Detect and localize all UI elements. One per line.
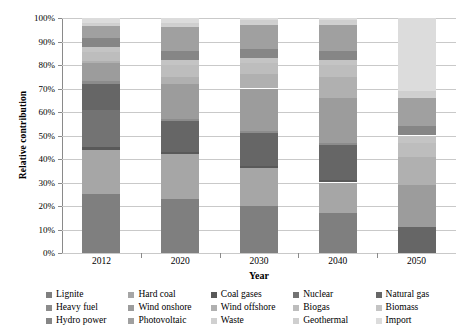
bar-segment[interactable]: [319, 145, 357, 180]
bar-segment[interactable]: [161, 84, 199, 119]
bar-segment[interactable]: [398, 98, 436, 126]
bar-segment[interactable]: [161, 18, 199, 23]
stacked-bar[interactable]: [161, 18, 199, 253]
legend-item[interactable]: Wind offshore: [211, 301, 293, 314]
bar-segment[interactable]: [398, 157, 436, 185]
chart-legend: LigniteHard coalCoal gasesNuclearNatural…: [46, 288, 458, 327]
bar-segment[interactable]: [161, 199, 199, 253]
bar-segment[interactable]: [161, 51, 199, 60]
bar-segment[interactable]: [240, 25, 278, 49]
y-axis-tick-label: 20%: [39, 201, 56, 211]
stacked-bar[interactable]: [319, 18, 357, 253]
legend-item[interactable]: Hydro power: [46, 314, 128, 327]
bar-segment[interactable]: [319, 23, 357, 25]
legend-item[interactable]: Lignite: [46, 288, 128, 301]
bar-segment[interactable]: [319, 60, 357, 65]
legend-item[interactable]: Hard coal: [128, 288, 210, 301]
bar-segment[interactable]: [82, 84, 120, 110]
bar-segment[interactable]: [319, 213, 357, 253]
plot-area: 0%10%20%30%40%50%60%70%80%90%100%: [62, 18, 456, 253]
bar-segment[interactable]: [240, 166, 278, 168]
bar-segment[interactable]: [398, 96, 436, 98]
bar-series-container: [62, 18, 456, 253]
y-axis-tick-label: 80%: [39, 60, 56, 70]
bar-segment[interactable]: [398, 136, 436, 143]
bar-segment[interactable]: [240, 133, 278, 166]
bar-segment[interactable]: [240, 89, 278, 131]
bar-segment[interactable]: [161, 119, 199, 121]
legend-swatch-icon: [376, 318, 382, 324]
bar-segment[interactable]: [240, 58, 278, 63]
bar-segment[interactable]: [82, 147, 120, 149]
bar-segment[interactable]: [398, 91, 436, 96]
legend-swatch-icon: [376, 292, 382, 298]
bar-segment[interactable]: [82, 24, 120, 26]
bar-segment[interactable]: [319, 98, 357, 143]
bar-segment[interactable]: [161, 27, 199, 51]
bar-segment[interactable]: [398, 185, 436, 227]
bar-segment[interactable]: [161, 154, 199, 199]
bar-segment[interactable]: [161, 60, 199, 65]
stacked-bar[interactable]: [82, 18, 120, 253]
bar-segment[interactable]: [161, 25, 199, 27]
bar-segment[interactable]: [319, 51, 357, 60]
bar-segment[interactable]: [240, 63, 278, 75]
bar-segment[interactable]: [319, 180, 357, 182]
legend-item[interactable]: Nuclear: [293, 288, 375, 301]
stacked-bar[interactable]: [398, 18, 436, 253]
bar-segment[interactable]: [398, 18, 436, 91]
legend-item[interactable]: Photovoltaic: [128, 314, 210, 327]
bar-segment[interactable]: [319, 25, 357, 51]
bar-segment[interactable]: [398, 143, 436, 157]
bar-segment[interactable]: [319, 18, 357, 20]
bar-segment[interactable]: [240, 74, 278, 88]
bar-segment[interactable]: [398, 126, 436, 135]
legend-swatch-icon: [128, 292, 134, 298]
bar-segment[interactable]: [240, 20, 278, 22]
bar-segment[interactable]: [240, 168, 278, 206]
bar-segment[interactable]: [82, 63, 120, 82]
bar-segment[interactable]: [82, 61, 120, 62]
bar-segment[interactable]: [319, 77, 357, 98]
legend-item[interactable]: Biomass: [376, 301, 458, 314]
bar-segment[interactable]: [319, 20, 357, 22]
stacked-bar[interactable]: [240, 18, 278, 253]
bar-segment[interactable]: [82, 52, 120, 61]
legend-item[interactable]: Import: [376, 314, 458, 327]
bar-segment[interactable]: [82, 81, 120, 83]
legend-swatch-icon: [211, 318, 217, 324]
bar-segment[interactable]: [161, 121, 199, 152]
bar-segment[interactable]: [319, 143, 357, 145]
bar-segment[interactable]: [240, 131, 278, 133]
bar-segment[interactable]: [82, 18, 120, 23]
bar-segment[interactable]: [319, 183, 357, 214]
legend-item-label: Import: [386, 314, 412, 327]
bar-segment[interactable]: [82, 23, 120, 24]
y-axis-tick-label: 50%: [39, 131, 56, 141]
bar-segment[interactable]: [240, 49, 278, 58]
legend-item[interactable]: Waste: [211, 314, 293, 327]
legend-item[interactable]: Natural gas: [376, 288, 458, 301]
bar-segment[interactable]: [82, 38, 120, 47]
bar-segment[interactable]: [398, 227, 436, 253]
legend-item[interactable]: Biogas: [293, 301, 375, 314]
bar-segment[interactable]: [319, 65, 357, 77]
bar-segment[interactable]: [240, 23, 278, 25]
legend-item[interactable]: Geothermal: [293, 314, 375, 327]
legend-item[interactable]: Coal gases: [211, 288, 293, 301]
bar-segment[interactable]: [240, 206, 278, 253]
bar-segment[interactable]: [82, 110, 120, 148]
legend-item[interactable]: Wind onshore: [128, 301, 210, 314]
bar-segment[interactable]: [161, 65, 199, 77]
bar-segment[interactable]: [161, 23, 199, 25]
bar-segment[interactable]: [82, 150, 120, 195]
bar-segment[interactable]: [82, 26, 120, 38]
legend-item-label: Geothermal: [303, 314, 348, 327]
legend-item[interactable]: Heavy fuel: [46, 301, 128, 314]
bar-segment[interactable]: [82, 47, 120, 52]
bar-segment[interactable]: [161, 152, 199, 154]
bar-segment[interactable]: [82, 194, 120, 253]
bar-segment[interactable]: [240, 18, 278, 20]
bar-segment[interactable]: [161, 77, 199, 84]
x-axis-tick-label: 2012: [61, 256, 141, 266]
